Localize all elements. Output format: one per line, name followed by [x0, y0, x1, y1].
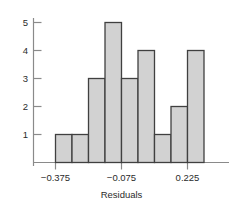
bar: [105, 23, 122, 163]
bar: [72, 135, 89, 163]
x-axis-title: Residuals: [0, 190, 243, 200]
x-tick-label-neg0375: −0.375: [29, 173, 83, 183]
bar: [56, 135, 73, 163]
plot-area: 5 4 3 2 1 −0.375 −0.075 0.225 Residuals: [0, 0, 243, 207]
bar: [171, 107, 188, 163]
x-tick-label-0225: 0.225: [161, 173, 215, 183]
bar: [188, 51, 205, 163]
y-tick-label-5: 5: [14, 18, 28, 28]
x-axis-ticks: [56, 163, 188, 170]
bar: [138, 51, 155, 163]
x-tick-label-neg0075: −0.075: [95, 173, 149, 183]
y-tick-label-2: 2: [14, 102, 28, 112]
bar: [89, 79, 106, 163]
histogram-bars: [56, 23, 205, 163]
bar: [155, 135, 172, 163]
bar: [122, 79, 139, 163]
y-tick-label-3: 3: [14, 74, 28, 84]
y-axis-ticks: [34, 23, 42, 135]
histogram-chart: 5 4 3 2 1 −0.375 −0.075 0.225 Residuals: [0, 0, 243, 207]
y-tick-label-4: 4: [14, 46, 28, 56]
y-tick-label-1: 1: [14, 130, 28, 140]
